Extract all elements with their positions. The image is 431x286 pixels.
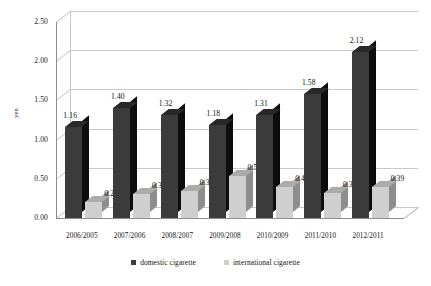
gridline-depth xyxy=(56,11,71,23)
legend-label: domestic cigarette xyxy=(140,258,196,267)
bar-international-cigarette-2009-2008 xyxy=(229,176,246,218)
legend-swatch-icon xyxy=(224,260,229,265)
bar-value-label: 1.58 xyxy=(302,78,316,87)
legend-label: international cigarette xyxy=(233,258,300,267)
y-axis-line xyxy=(56,22,57,218)
bar-international-cigarette-2008-2007 xyxy=(181,191,198,218)
bar-value-label: 2.12 xyxy=(350,36,364,45)
y-tick-label: 2.00 xyxy=(14,56,48,65)
bar-side-face xyxy=(82,115,89,212)
chart-container: yen 0.000.501.001.502.002.50 1.160.201.4… xyxy=(0,0,431,286)
gridline-depth xyxy=(56,50,71,62)
bar-international-cigarette-2006-2005 xyxy=(85,202,102,218)
bar-value-label: 1.18 xyxy=(207,109,221,118)
gridline-depth xyxy=(56,89,71,101)
legend-item-0[interactable]: domestic cigarette xyxy=(131,258,196,267)
bar-front-face xyxy=(113,108,130,218)
bar-value-label: 1.32 xyxy=(159,99,173,108)
bar-front-face xyxy=(85,202,102,218)
bar-international-cigarette-2011-2010 xyxy=(324,193,341,218)
bar-domestic-cigarette-2006-2005 xyxy=(65,127,82,218)
bar-front-face xyxy=(324,193,341,218)
x-tick-label: 2009/2008 xyxy=(201,232,249,240)
y-axis-tick-labels: 0.000.501.001.502.002.50 xyxy=(10,0,48,286)
bar-domestic-cigarette-2012-2011 xyxy=(352,52,369,218)
x-tick-label: 2011/2010 xyxy=(297,232,345,240)
bar-international-cigarette-2007-2006 xyxy=(133,194,150,218)
y-tick-label: 2.50 xyxy=(14,17,48,26)
bar-domestic-cigarette-2010-2009 xyxy=(256,115,273,218)
gridline xyxy=(70,11,418,12)
bar-front-face xyxy=(65,127,82,218)
bar-international-cigarette-2010-2009 xyxy=(276,187,293,218)
bar-domestic-cigarette-2008-2007 xyxy=(161,115,178,218)
bar-value-label: 1.16 xyxy=(63,111,77,120)
bar-front-face xyxy=(181,191,198,218)
bar-value-label: 1.31 xyxy=(254,99,268,108)
x-axis-line xyxy=(56,218,404,219)
bar-front-face xyxy=(161,115,178,218)
bar-front-face xyxy=(229,176,246,218)
x-tick-label: 2012/2011 xyxy=(344,232,392,240)
bar-front-face xyxy=(209,125,226,218)
bar-international-cigarette-2012-2011 xyxy=(372,187,389,218)
bar-domestic-cigarette-2009-2008 xyxy=(209,125,226,218)
x-tick-label: 2008/2007 xyxy=(153,232,201,240)
y-tick-label: 1.50 xyxy=(14,95,48,104)
y-tick-label: 0.00 xyxy=(14,213,48,222)
floor-right-edge xyxy=(404,207,419,219)
bar-front-face xyxy=(256,115,273,218)
bar-front-face xyxy=(133,194,150,218)
x-tick-label: 2006/2005 xyxy=(58,232,106,240)
x-tick-label: 2010/2009 xyxy=(249,232,297,240)
chart-legend: domestic cigaretteinternational cigarett… xyxy=(0,258,431,267)
bar-front-face xyxy=(304,94,321,218)
bar-front-face xyxy=(372,187,389,218)
bar-front-face xyxy=(276,187,293,218)
bar-value-label: 1.40 xyxy=(111,92,125,101)
x-tick-label: 2007/2006 xyxy=(106,232,154,240)
bar-domestic-cigarette-2011-2010 xyxy=(304,94,321,218)
bar-domestic-cigarette-2007-2006 xyxy=(113,108,130,218)
bar-front-face xyxy=(352,52,369,218)
bar-value-label: 0.39 xyxy=(391,174,405,183)
legend-swatch-icon xyxy=(131,260,136,265)
legend-item-1[interactable]: international cigarette xyxy=(224,258,300,267)
y-tick-label: 1.00 xyxy=(14,135,48,144)
y-tick-label: 0.50 xyxy=(14,174,48,183)
